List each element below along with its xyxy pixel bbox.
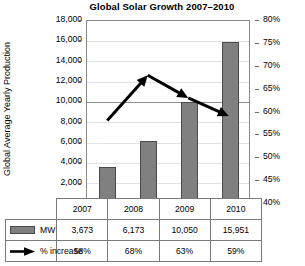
gray-bar-swatch-icon — [10, 226, 35, 234]
secondary-y-axis-tick-mark — [255, 134, 259, 135]
chart-title: Global Solar Growth 2007–2010 — [62, 0, 262, 13]
y-axis-tick-mark — [78, 142, 82, 143]
table-cell-percent-increase: 59% — [210, 241, 261, 262]
table-cell-mw: 3,673 — [57, 220, 108, 241]
secondary-y-axis-tick-label: 70% — [263, 61, 297, 70]
y-axis-tick-mark — [78, 101, 82, 102]
secondary-y-axis-tick-labels: 40%45%50%55%60%65%70%75%80% — [255, 0, 305, 266]
y-axis-title-container: Global Average Yearly Production — [0, 14, 14, 204]
y-axis-tick-mark — [78, 162, 82, 163]
y-axis-tick-label: 6,000 — [40, 137, 82, 146]
table-row-years: 2007 2008 2009 2010 — [6, 199, 262, 220]
secondary-y-axis-tick-label: 50% — [263, 152, 297, 161]
table-cell-mw: 6,173 — [108, 220, 159, 241]
secondary-y-axis-tick-label: 80% — [263, 15, 297, 24]
secondary-y-axis-tick-mark — [255, 157, 259, 158]
table-cell-mw: 10,050 — [159, 220, 210, 241]
secondary-y-axis-tick-label: 55% — [263, 129, 297, 138]
table-row: MW 3,673 6,173 10,050 15,951 — [6, 220, 262, 241]
secondary-y-axis-tick-label: 45% — [263, 175, 297, 184]
y-axis-tick-mark — [78, 81, 82, 82]
table-row: % increase 58% 68% 63% 59% — [6, 241, 262, 262]
table-header-year: 2009 — [159, 199, 210, 220]
secondary-y-axis-tick-label: 65% — [263, 84, 297, 93]
secondary-y-axis-tick-mark — [255, 112, 259, 113]
y-axis-tick-mark — [78, 20, 82, 21]
plot-area — [86, 20, 250, 203]
table-corner-cell — [6, 199, 57, 220]
table-header-year: 2007 — [57, 199, 108, 220]
table-cell-mw: 15,951 — [210, 220, 261, 241]
secondary-y-axis-tick-label: 75% — [263, 38, 297, 47]
legend-cell-percent-increase: % increase — [6, 241, 57, 262]
secondary-y-axis-tick-mark — [255, 66, 259, 67]
line-segment — [107, 82, 142, 121]
y-axis-tick-label: 10,000 — [40, 96, 82, 105]
y-axis-tick-label: 4,000 — [40, 157, 82, 166]
y-axis-tick-mark — [78, 40, 82, 41]
y-axis-tick-mark — [78, 61, 82, 62]
legend-label-mw: MW — [40, 226, 55, 235]
y-axis-tick-label: 12,000 — [40, 76, 82, 85]
y-axis-tick-label: 8,000 — [40, 117, 82, 126]
y-axis-tick-label: 2,000 — [40, 178, 82, 187]
y-axis-tick-mark — [78, 183, 82, 184]
y-axis-tick-label: 18,000 — [40, 15, 82, 24]
secondary-y-axis-tick-mark — [255, 180, 259, 181]
secondary-y-axis-tick-label: 40% — [263, 198, 297, 207]
y-axis-tick-label: 14,000 — [40, 56, 82, 65]
line-segment — [148, 75, 181, 93]
table-header-year: 2010 — [210, 199, 261, 220]
chart-container: Global Solar Growth 2007–2010 Global Ave… — [0, 0, 305, 266]
line-series-percent-increase — [87, 21, 249, 202]
line-segment — [188, 98, 220, 112]
table-cell-percent-increase: 63% — [159, 241, 210, 262]
y-axis-tick-mark — [78, 122, 82, 123]
secondary-y-axis-tick-label: 60% — [263, 107, 297, 116]
black-arrow-swatch-icon — [10, 247, 35, 256]
legend-cell-mw: MW — [6, 220, 57, 241]
secondary-y-axis-tick-mark — [255, 43, 259, 44]
secondary-y-axis-tick-mark — [255, 89, 259, 90]
data-table: 2007 2008 2009 2010 MW 3,673 6,173 10,05… — [5, 198, 262, 262]
y-axis-title: Global Average Yearly Production — [2, 42, 12, 176]
y-axis-tick-label: 16,000 — [40, 35, 82, 44]
table-header-year: 2008 — [108, 199, 159, 220]
secondary-y-axis-tick-mark — [255, 20, 259, 21]
table-cell-percent-increase: 68% — [108, 241, 159, 262]
